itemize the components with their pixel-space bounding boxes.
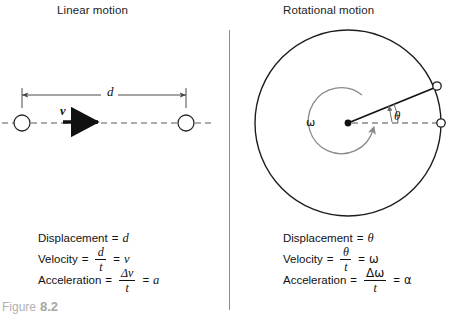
fraction-numerator: d — [96, 246, 106, 259]
equation-fraction-velocity-rotational: θ t — [340, 246, 351, 273]
equation-label-velocity-rotational: Velocity — [283, 254, 323, 266]
equation-equals-sign: = — [350, 275, 357, 287]
equation-equals-sign-2: = — [113, 254, 120, 266]
equation-equals-sign-2: = — [393, 275, 400, 287]
particle-start-marker — [14, 115, 30, 131]
rotation-center-dot — [345, 120, 352, 127]
equation-row-velocity-linear: Velocity = d t = v — [38, 249, 159, 270]
theta-angle-pointer — [389, 106, 392, 122]
rotated-radius-line — [348, 88, 434, 123]
equation-result-velocity-linear: v — [124, 253, 130, 266]
equation-label-displacement-linear: Displacement — [38, 233, 108, 245]
equation-result-acceleration-rotational: α — [404, 275, 412, 287]
equations-rotational: Displacement = θ Velocity = θ t = ω Acce… — [283, 228, 412, 291]
equation-equals-sign: = — [357, 233, 364, 245]
panel-divider — [229, 30, 230, 310]
fraction-numerator: Δω — [364, 267, 386, 280]
equation-equals-sign: = — [327, 254, 334, 266]
point-after-rotation-marker — [433, 82, 441, 90]
panel-title-rotational: Rotational motion — [283, 4, 374, 16]
equation-result-acceleration-linear: a — [153, 274, 159, 287]
equation-fraction-acceleration-rotational: Δω t — [364, 267, 386, 294]
equations-linear: Displacement = d Velocity = d t = v Acce… — [38, 228, 159, 291]
angular-velocity-spiral-arrow — [308, 88, 373, 154]
panel-title-linear: Linear motion — [57, 4, 128, 16]
angle-label-theta: θ — [394, 108, 400, 124]
fraction-denominator: t — [97, 260, 104, 273]
equation-label-acceleration-rotational: Acceleration — [283, 275, 346, 287]
fraction-numerator: Δv — [119, 267, 135, 280]
distance-label-d: d — [104, 84, 117, 100]
equation-label-displacement-rotational: Displacement — [283, 233, 353, 245]
equation-result-displacement-linear: d — [122, 232, 128, 245]
equation-label-velocity-linear: Velocity — [38, 254, 78, 266]
equation-row-acceleration-linear: Acceleration = Δv t = a — [38, 270, 159, 291]
equation-fraction-acceleration-linear: Δv t — [119, 267, 135, 294]
equation-equals-sign: = — [82, 254, 89, 266]
rotating-body-circle — [255, 30, 441, 216]
figure-caption-prefix: Figure — [2, 300, 36, 314]
rotational-motion-diagram — [255, 30, 445, 216]
equation-equals-sign: = — [112, 233, 119, 245]
fraction-denominator: t — [371, 281, 378, 294]
equation-fraction-velocity-linear: d t — [95, 246, 106, 273]
figure-caption-number: 8.2 — [40, 299, 58, 314]
fraction-denominator: t — [342, 260, 349, 273]
equation-row-velocity-rotational: Velocity = θ t = ω — [283, 249, 412, 270]
figure-caption: Figure8.2 — [2, 299, 58, 314]
equation-label-acceleration-linear: Acceleration — [38, 275, 101, 287]
particle-end-marker — [178, 115, 194, 131]
equation-result-velocity-rotational: ω — [369, 254, 379, 266]
equation-equals-sign-2: = — [358, 254, 365, 266]
point-reference-marker — [437, 119, 445, 127]
equation-equals-sign: = — [105, 275, 112, 287]
velocity-label-v: v — [60, 104, 66, 119]
equation-equals-sign-2: = — [142, 275, 149, 287]
fraction-numerator: θ — [341, 246, 351, 259]
angular-velocity-label-omega: ω — [306, 116, 315, 129]
fraction-denominator: t — [124, 281, 131, 294]
equation-result-displacement-rotational: θ — [367, 232, 373, 245]
